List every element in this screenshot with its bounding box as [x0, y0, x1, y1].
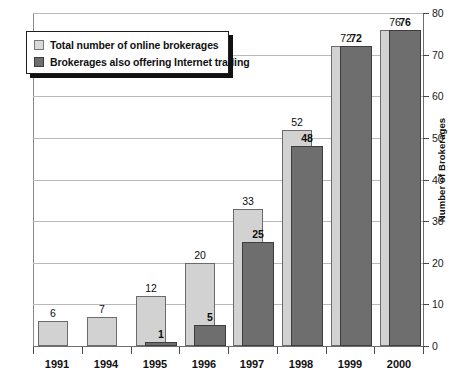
- bar-total-brokerages: [38, 321, 68, 346]
- y-axis-tick-label: 0: [432, 341, 438, 352]
- bar-value-label: 1: [145, 329, 177, 340]
- gridline: [33, 13, 423, 14]
- y-axis-tick: [423, 96, 429, 97]
- x-axis-tick: [179, 347, 180, 354]
- x-axis-tick: [277, 347, 278, 354]
- bar-chart: 01020304050607080 Number of Brokerages 6…: [0, 0, 461, 384]
- y-axis-tick: [423, 55, 429, 56]
- y-axis-tick-label: 10: [432, 299, 444, 310]
- x-axis-tick: [374, 347, 375, 354]
- y-axis-tick: [423, 263, 429, 264]
- bar-value-label: 52: [282, 117, 312, 128]
- bar-value-label: 20: [185, 250, 215, 261]
- x-axis-tick: [228, 347, 229, 354]
- y-axis-tick-label: 20: [432, 258, 444, 269]
- x-axis-tick: [326, 347, 327, 354]
- x-axis-tick: [131, 347, 132, 354]
- x-axis-tick-label: 1997: [240, 358, 264, 370]
- bar-value-label: 5: [194, 312, 226, 323]
- bar-internet-trading: [242, 242, 274, 346]
- bar-internet-trading: [194, 325, 226, 346]
- light-swatch-icon: [34, 40, 44, 50]
- dark-swatch-icon: [34, 57, 44, 67]
- y-axis-tick-label: 70: [432, 49, 444, 60]
- y-axis-title: Number of Brokerages: [436, 118, 447, 222]
- x-axis-tick: [33, 347, 34, 354]
- bar-internet-trading: [340, 46, 372, 346]
- y-axis-tick: [423, 304, 429, 305]
- chart-legend: Total number of online brokerages Broker…: [26, 31, 229, 74]
- y-axis-tick: [423, 221, 429, 222]
- y-axis-tick: [423, 138, 429, 139]
- legend-item-label: Brokerages also offering Internet tradin…: [50, 56, 250, 68]
- bar-internet-trading: [145, 342, 177, 346]
- x-axis-tick: [82, 347, 83, 354]
- bar-value-label: 12: [136, 283, 166, 294]
- bar-value-label: 76: [389, 17, 421, 28]
- x-axis-tick-label: 1999: [338, 358, 362, 370]
- bar-value-label: 72: [340, 33, 372, 44]
- y-axis-tick: [423, 13, 429, 14]
- x-axis-tick-label: 1994: [94, 358, 118, 370]
- bar-internet-trading: [291, 146, 323, 346]
- bar-value-label: 7: [87, 304, 117, 315]
- legend-item-label: Total number of online brokerages: [50, 39, 219, 51]
- legend-item-internet: Brokerages also offering Internet tradin…: [34, 54, 221, 70]
- x-axis-tick-label: 1998: [289, 358, 313, 370]
- x-axis-tick-label: 1996: [192, 358, 216, 370]
- y-axis-tick-label: 60: [432, 91, 444, 102]
- bar-value-label: 6: [38, 308, 68, 319]
- y-axis-tick-label: 80: [432, 8, 444, 19]
- bar-total-brokerages: [87, 317, 117, 346]
- bar-value-label: 33: [233, 196, 263, 207]
- bar-value-label: 48: [291, 133, 323, 144]
- legend-item-total: Total number of online brokerages: [34, 37, 221, 53]
- x-axis-tick-label: 1991: [45, 358, 69, 370]
- y-axis-tick: [423, 180, 429, 181]
- x-axis-tick-label: 1995: [143, 358, 167, 370]
- bar-internet-trading: [389, 30, 421, 346]
- x-axis-tick-label: 2000: [387, 358, 411, 370]
- bar-value-label: 25: [242, 229, 274, 240]
- x-axis-tick: [423, 347, 424, 354]
